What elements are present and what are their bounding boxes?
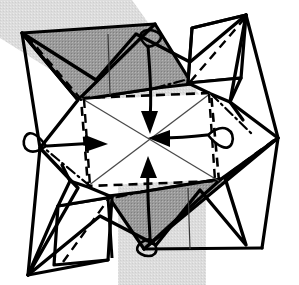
origami-diagram-figure — [0, 0, 299, 285]
edge-bottom-right-long — [144, 248, 262, 249]
origami-diagram-canvas — [0, 0, 299, 285]
